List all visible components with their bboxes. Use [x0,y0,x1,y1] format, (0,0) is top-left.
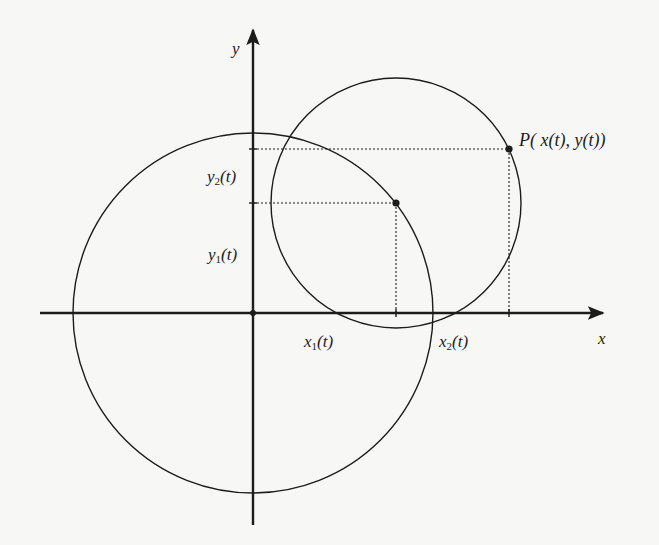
x-axis-label: x [598,330,606,347]
x2-arg: (t) [452,332,468,351]
point-P-label: P( x(t), y(t)) [519,131,605,149]
y2-base: y [207,167,215,186]
y1-arg: (t) [221,245,237,264]
origin-dot [250,310,256,316]
diagram-svg [0,0,659,545]
x2-base: x [439,332,447,351]
y2-arg: (t) [220,167,236,186]
point-P-dot [505,145,512,152]
y1-base: y [208,245,216,264]
x1-arg: (t) [317,332,333,351]
point-1-dot [392,199,399,206]
y-axis-label: y [232,40,240,57]
x1-base: x [304,332,312,351]
diagram-canvas: y x y2(t) y1(t) x1(t) x2(t) P( x(t), y(t… [0,0,659,545]
x2-label: x2(t) [439,333,468,352]
x1-label: x1(t) [304,333,333,352]
y2-label: y2(t) [207,168,236,187]
y1-label: y1(t) [208,246,237,265]
